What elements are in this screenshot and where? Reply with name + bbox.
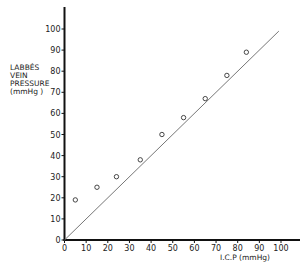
scatter-chart: 0102030405060708090100010203040506070809… xyxy=(0,0,306,269)
data-point-marker xyxy=(73,198,77,202)
y-tick-label: 50 xyxy=(50,131,60,140)
x-tick-label: 90 xyxy=(254,244,264,253)
x-tick-label: 70 xyxy=(211,244,221,253)
y-tick-label: 10 xyxy=(50,215,60,224)
data-point-marker xyxy=(225,73,229,77)
y-axis-title-line: (mmHg ) xyxy=(10,87,43,96)
data-point-marker xyxy=(114,175,118,179)
y-tick-label: 40 xyxy=(50,152,60,161)
data-point-marker xyxy=(244,50,248,54)
y-tick-label: 70 xyxy=(50,88,60,97)
y-tick-label: 20 xyxy=(50,194,60,203)
identity-line xyxy=(65,31,279,240)
x-tick-label: 0 xyxy=(62,244,67,253)
data-point-marker xyxy=(138,158,142,162)
x-tick-label: 20 xyxy=(103,244,113,253)
y-tick-label: 80 xyxy=(50,67,60,76)
x-tick-label: 100 xyxy=(273,244,288,253)
data-point-marker xyxy=(203,96,207,100)
x-tick-label: 50 xyxy=(168,244,178,253)
y-tick-label: 60 xyxy=(50,109,60,118)
y-tick-label: 0 xyxy=(55,236,60,245)
y-axis-title: LABBÉSVEINPRESSURE(mmHg ) xyxy=(10,63,50,96)
x-tick-label: 30 xyxy=(124,244,134,253)
tick-marks: 0102030405060708090100010203040506070809… xyxy=(45,25,288,253)
x-axis-title: I.C.P (mmHg) xyxy=(220,253,270,262)
y-tick-label: 90 xyxy=(50,46,60,55)
x-tick-label: 80 xyxy=(233,244,243,253)
x-tick-label: 10 xyxy=(81,244,91,253)
y-tick-label: 100 xyxy=(45,25,60,34)
x-tick-label: 40 xyxy=(146,244,156,253)
data-point-marker xyxy=(95,185,99,189)
data-point-marker xyxy=(181,115,185,119)
identity-line-path xyxy=(65,31,279,240)
y-tick-label: 30 xyxy=(50,173,60,182)
x-tick-label: 60 xyxy=(189,244,199,253)
data-point-marker xyxy=(160,132,164,136)
data-points xyxy=(73,50,248,202)
